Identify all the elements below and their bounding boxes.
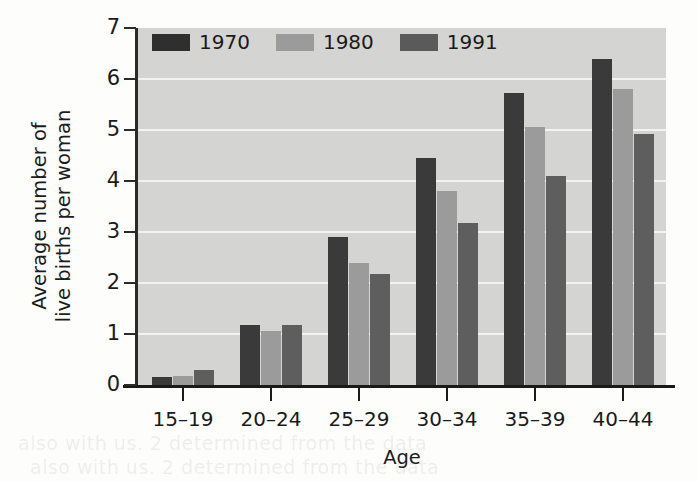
bar-1991-15-19 [194, 370, 214, 385]
legend-label: 1991 [447, 32, 498, 52]
y-axis-tick [124, 282, 136, 284]
x-axis-tick [182, 388, 184, 401]
bar-1980-35-39 [525, 127, 545, 385]
bar-1970-35-39 [504, 93, 524, 385]
y-axis-tick-label: 1 [96, 323, 120, 344]
gridline [138, 180, 666, 182]
y-axis-tick [124, 180, 136, 182]
y-axis-tick-label: 0 [96, 374, 120, 395]
bar-1980-20-24 [261, 331, 281, 385]
x-axis-tick [622, 388, 624, 401]
bar-1980-40-44 [613, 89, 633, 385]
bar-1991-35-39 [546, 176, 566, 385]
x-axis-tick [270, 388, 272, 401]
y-axis-tick-label: 7 [96, 17, 120, 38]
gridline [138, 78, 666, 80]
y-axis-tick-label: 3 [96, 221, 120, 242]
legend-item-1991: 1991 [400, 32, 498, 52]
x-axis-line [123, 385, 675, 388]
bar-1970-15-19 [152, 377, 172, 385]
y-axis-tick [124, 333, 136, 335]
y-axis-line [135, 28, 138, 385]
gridline [138, 129, 666, 131]
bar-1991-30-34 [458, 223, 478, 385]
y-axis-tick [124, 231, 136, 233]
y-axis-tick-label: 6 [96, 68, 120, 89]
legend-swatch-icon-1970 [152, 34, 190, 51]
bar-1991-20-24 [282, 325, 302, 385]
bar-1991-25-29 [370, 274, 390, 385]
x-axis-title: Age [138, 446, 666, 469]
y-axis-tick [124, 129, 136, 131]
gridline [138, 231, 666, 233]
gridline [138, 333, 666, 335]
gridline [138, 282, 666, 284]
x-axis-tick [358, 388, 360, 401]
y-axis-tick-label: 5 [96, 119, 120, 140]
bar-1980-25-29 [349, 263, 369, 385]
x-axis-tick [534, 388, 536, 401]
legend-swatch-icon-1980 [276, 34, 314, 51]
legend-label: 1970 [199, 32, 250, 52]
x-axis-tick-label: 40–44 [568, 407, 678, 431]
bar-1970-30-34 [416, 158, 436, 385]
bar-1980-30-34 [437, 191, 457, 385]
bar-1980-15-19 [173, 376, 193, 385]
legend-item-1970: 1970 [152, 32, 250, 52]
y-axis-tick [124, 27, 136, 29]
bar-1991-40-44 [634, 134, 654, 385]
chart-legend: 197019801991 [152, 32, 498, 52]
plot-area [138, 28, 666, 385]
y-axis-tick [124, 384, 136, 386]
legend-item-1980: 1980 [276, 32, 374, 52]
bar-chart-figure: also with us. 2 determined from the data… [0, 0, 697, 482]
y-axis-tick-label: 2 [96, 272, 120, 293]
legend-label: 1980 [323, 32, 374, 52]
bar-1970-25-29 [328, 237, 348, 385]
x-axis-tick [446, 388, 448, 401]
bar-1970-40-44 [592, 59, 612, 385]
y-axis-tick [124, 78, 136, 80]
y-axis-title: Average number of live births per woman [28, 81, 76, 351]
legend-swatch-icon-1991 [400, 34, 438, 51]
bar-1970-20-24 [240, 325, 260, 385]
y-axis-tick-label: 4 [96, 170, 120, 191]
